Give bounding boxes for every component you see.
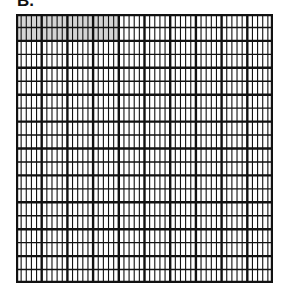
- figure-label: B.: [17, 0, 34, 11]
- grid-svg: [16, 14, 273, 283]
- hundredths-grid: [16, 14, 273, 283]
